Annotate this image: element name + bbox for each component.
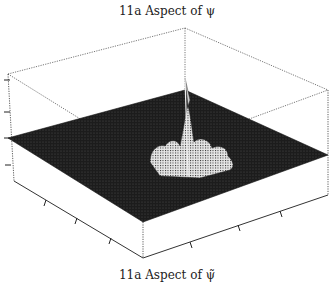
y-axis-ticks xyxy=(190,211,282,248)
z-axis-ticks xyxy=(4,80,11,165)
surface-plot xyxy=(0,0,334,290)
x-axis-ticks xyxy=(44,200,111,244)
figure-title-bottom: 11a Aspect of ψ̃ xyxy=(0,268,334,282)
